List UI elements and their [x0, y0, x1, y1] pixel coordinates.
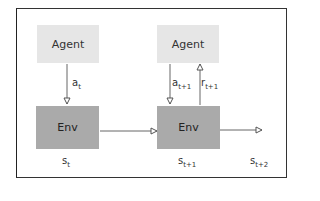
agent-label: Agent: [52, 38, 85, 51]
label-s-t2: st+2: [250, 155, 268, 169]
label-s-t1: st+1: [178, 155, 196, 169]
agent-node-t: Agent: [37, 25, 99, 63]
env-node-t1: Env: [157, 106, 220, 149]
label-r-t1: rt+1: [201, 77, 218, 91]
env-label: Env: [57, 121, 77, 134]
label-a-t1: at+1: [172, 77, 191, 91]
env-node-t: Env: [36, 106, 99, 149]
agent-label: Agent: [172, 38, 205, 51]
env-label: Env: [178, 121, 198, 134]
label-a-t: at: [72, 77, 81, 91]
agent-node-t1: Agent: [157, 25, 219, 63]
label-s-t: st: [62, 155, 70, 169]
